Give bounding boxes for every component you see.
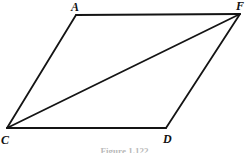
vertex-label-f: F	[236, 0, 244, 12]
vertex-label-c: C	[1, 134, 9, 146]
figure-caption: Figure 1.122	[0, 147, 249, 153]
geometry-figure: A F C D Figure 1.122	[0, 0, 249, 153]
edge-d-f	[166, 14, 240, 128]
edge-group	[7, 14, 240, 128]
vertex-label-a: A	[71, 1, 79, 13]
figure-canvas	[0, 0, 249, 153]
vertex-label-d: D	[163, 133, 172, 145]
edge-a-f	[76, 14, 240, 15]
